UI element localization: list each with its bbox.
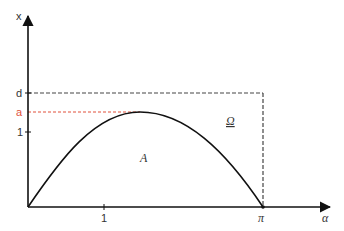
x-axis-label: α — [322, 211, 329, 225]
x-tick-label-1: 1 — [101, 212, 107, 224]
diagram-canvas: x α d a 1 1 π A Ω — [0, 0, 344, 231]
x-tick-label-pi: π — [258, 211, 265, 225]
dashed-rectangle — [28, 93, 263, 207]
y-tick-label-1: 1 — [17, 126, 23, 138]
region-label-a: A — [139, 151, 148, 165]
region-label-omega: Ω — [226, 114, 235, 128]
y-tick-label-d: d — [16, 87, 22, 99]
y-axis-label: x — [16, 10, 22, 22]
x-point-pi — [261, 205, 265, 209]
y-tick-label-a: a — [16, 106, 23, 118]
